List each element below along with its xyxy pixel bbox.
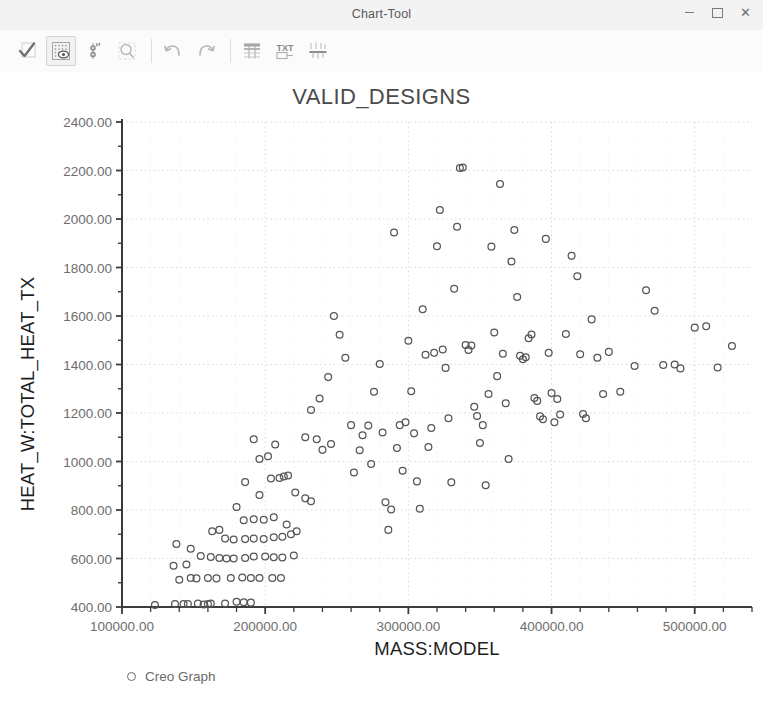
- zoom-magnifier-icon[interactable]: [112, 36, 142, 66]
- axis-settings-icon[interactable]: [79, 36, 109, 66]
- data-point[interactable]: [448, 479, 455, 486]
- data-point[interactable]: [551, 419, 558, 426]
- data-point[interactable]: [270, 554, 277, 561]
- data-point[interactable]: [600, 391, 607, 398]
- data-point[interactable]: [260, 536, 267, 543]
- data-point[interactable]: [368, 461, 375, 468]
- data-point[interactable]: [279, 533, 286, 540]
- data-point[interactable]: [385, 526, 392, 533]
- data-point[interactable]: [442, 364, 449, 371]
- data-point[interactable]: [359, 432, 366, 439]
- data-point[interactable]: [617, 388, 624, 395]
- data-point[interactable]: [554, 396, 561, 403]
- data-point[interactable]: [436, 207, 443, 214]
- data-point[interactable]: [562, 331, 569, 338]
- data-point[interactable]: [313, 436, 320, 443]
- data-point[interactable]: [482, 482, 489, 489]
- data-point[interactable]: [173, 541, 180, 548]
- data-point[interactable]: [328, 441, 335, 448]
- grid-visibility-icon[interactable]: [46, 36, 76, 66]
- data-point[interactable]: [422, 351, 429, 358]
- redo-icon[interactable]: [191, 36, 221, 66]
- data-point[interactable]: [419, 306, 426, 313]
- data-point[interactable]: [209, 528, 216, 535]
- data-point[interactable]: [316, 395, 323, 402]
- data-point[interactable]: [260, 516, 267, 523]
- data-point[interactable]: [505, 456, 512, 463]
- data-point[interactable]: [342, 354, 349, 361]
- data-point[interactable]: [577, 351, 584, 358]
- data-point[interactable]: [247, 575, 254, 582]
- data-point[interactable]: [643, 287, 650, 294]
- data-point[interactable]: [256, 456, 263, 463]
- data-point[interactable]: [240, 599, 247, 606]
- data-point[interactable]: [631, 363, 638, 370]
- data-point[interactable]: [651, 307, 658, 314]
- data-point[interactable]: [677, 365, 684, 372]
- data-point[interactable]: [336, 331, 343, 338]
- data-point[interactable]: [428, 425, 435, 432]
- data-point[interactable]: [270, 514, 277, 521]
- data-point[interactable]: [242, 536, 249, 543]
- data-point[interactable]: [402, 419, 409, 426]
- data-point[interactable]: [230, 536, 237, 543]
- data-point[interactable]: [256, 492, 263, 499]
- data-point[interactable]: [454, 223, 461, 230]
- data-point[interactable]: [588, 316, 595, 323]
- data-point[interactable]: [508, 258, 515, 265]
- data-point[interactable]: [714, 364, 721, 371]
- data-point[interactable]: [434, 243, 441, 250]
- data-point[interactable]: [568, 252, 575, 259]
- accept-check-icon[interactable]: [13, 36, 43, 66]
- data-point[interactable]: [222, 535, 229, 542]
- data-point[interactable]: [485, 391, 492, 398]
- data-point[interactable]: [325, 374, 332, 381]
- data-point[interactable]: [270, 534, 277, 541]
- data-point[interactable]: [283, 521, 290, 528]
- data-point[interactable]: [256, 575, 263, 582]
- data-point[interactable]: [497, 181, 504, 188]
- data-point[interactable]: [411, 430, 418, 437]
- minimize-button[interactable]: [682, 4, 697, 21]
- data-point[interactable]: [574, 273, 581, 280]
- scatter-plot[interactable]: 400.00600.00800.001000.001200.001400.001…: [0, 72, 763, 710]
- data-point[interactable]: [451, 285, 458, 292]
- data-point[interactable]: [293, 528, 300, 535]
- data-point[interactable]: [488, 243, 495, 250]
- data-point[interactable]: [285, 472, 292, 479]
- data-point[interactable]: [276, 475, 283, 482]
- data-point[interactable]: [394, 445, 401, 452]
- data-point[interactable]: [445, 415, 452, 422]
- data-point[interactable]: [479, 422, 486, 429]
- data-point[interactable]: [227, 575, 234, 582]
- data-point[interactable]: [233, 598, 240, 605]
- data-point[interactable]: [502, 400, 509, 407]
- data-point[interactable]: [356, 447, 363, 454]
- data-point[interactable]: [499, 350, 506, 357]
- data-point[interactable]: [183, 561, 190, 568]
- axes-config-icon[interactable]: [303, 36, 333, 66]
- data-point[interactable]: [494, 373, 501, 380]
- data-point[interactable]: [477, 440, 484, 447]
- text-label-icon[interactable]: TXT: [270, 36, 300, 66]
- data-point[interactable]: [439, 346, 446, 353]
- data-point[interactable]: [308, 498, 315, 505]
- data-point[interactable]: [242, 479, 249, 486]
- data-point[interactable]: [605, 348, 612, 355]
- data-point[interactable]: [511, 227, 518, 234]
- data-point[interactable]: [239, 574, 246, 581]
- data-point[interactable]: [278, 575, 285, 582]
- data-point[interactable]: [197, 553, 204, 560]
- data-point[interactable]: [729, 343, 736, 350]
- table-view-icon[interactable]: [237, 36, 267, 66]
- data-point[interactable]: [365, 422, 372, 429]
- data-point[interactable]: [414, 478, 421, 485]
- data-point[interactable]: [703, 323, 710, 330]
- data-point[interactable]: [471, 403, 478, 410]
- data-point[interactable]: [272, 441, 279, 448]
- data-point[interactable]: [514, 294, 521, 301]
- data-point[interactable]: [399, 467, 406, 474]
- data-point[interactable]: [292, 489, 299, 496]
- data-point[interactable]: [279, 554, 286, 561]
- data-point[interactable]: [187, 545, 194, 552]
